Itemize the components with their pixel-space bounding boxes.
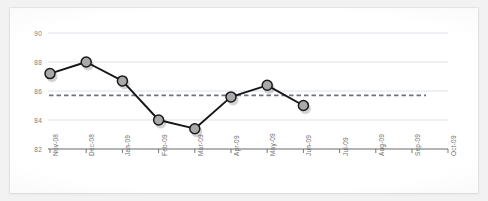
x-tick-label-apr-09: Apr-09 bbox=[233, 135, 241, 156]
data-point-jun-09[interactable] bbox=[298, 101, 308, 111]
x-tick-label-mar-09: Mar-09 bbox=[197, 134, 204, 156]
x-tick-label-may-09: May-09 bbox=[269, 133, 277, 156]
data-point-jan-09[interactable] bbox=[117, 76, 127, 86]
data-point-apr-09[interactable] bbox=[226, 92, 236, 102]
data-point-feb-09[interactable] bbox=[154, 115, 164, 125]
y-tick-label-88: 88 bbox=[34, 59, 42, 66]
x-tick-label-aug-09: Aug-09 bbox=[378, 134, 386, 156]
x-tick-label-oct-09: Oct-09 bbox=[450, 135, 457, 156]
chart-widget: 90 88 86 84 82 Nov-08 Dec- bbox=[0, 0, 488, 201]
y-tick-label-90: 90 bbox=[34, 30, 42, 37]
x-tick-label-jun-09: Jun-09 bbox=[305, 135, 312, 156]
data-point-dec-08[interactable] bbox=[81, 57, 91, 67]
x-tick-label-feb-09: Feb-09 bbox=[161, 134, 168, 156]
data-point-nov-08[interactable] bbox=[45, 69, 55, 79]
x-tick-label-nov-08: Nov-08 bbox=[52, 134, 59, 156]
x-tick-label-jul-09: Jul-09 bbox=[342, 137, 349, 156]
data-point-may-09[interactable] bbox=[262, 80, 272, 90]
y-tick-label-82: 82 bbox=[34, 146, 42, 153]
x-tick-label-dec-08: Dec-08 bbox=[88, 134, 95, 156]
gridlines bbox=[48, 33, 448, 120]
x-tick-label-sep-09: Sep-09 bbox=[414, 134, 422, 156]
y-tick-label-84: 84 bbox=[34, 117, 42, 124]
x-tick-label-jan-09: Jan-09 bbox=[124, 135, 131, 156]
y-tick-label-86: 86 bbox=[34, 88, 42, 95]
x-axis-labels: Nov-08 Dec-08 Jan-09 Feb-09 Mar-09 Apr-0… bbox=[52, 133, 457, 156]
line-chart: 90 88 86 84 82 Nov-08 Dec- bbox=[0, 0, 488, 201]
data-point-mar-09[interactable] bbox=[190, 124, 200, 134]
y-axis-labels: 90 88 86 84 82 bbox=[34, 30, 42, 153]
x-axis-ticks bbox=[50, 149, 448, 153]
